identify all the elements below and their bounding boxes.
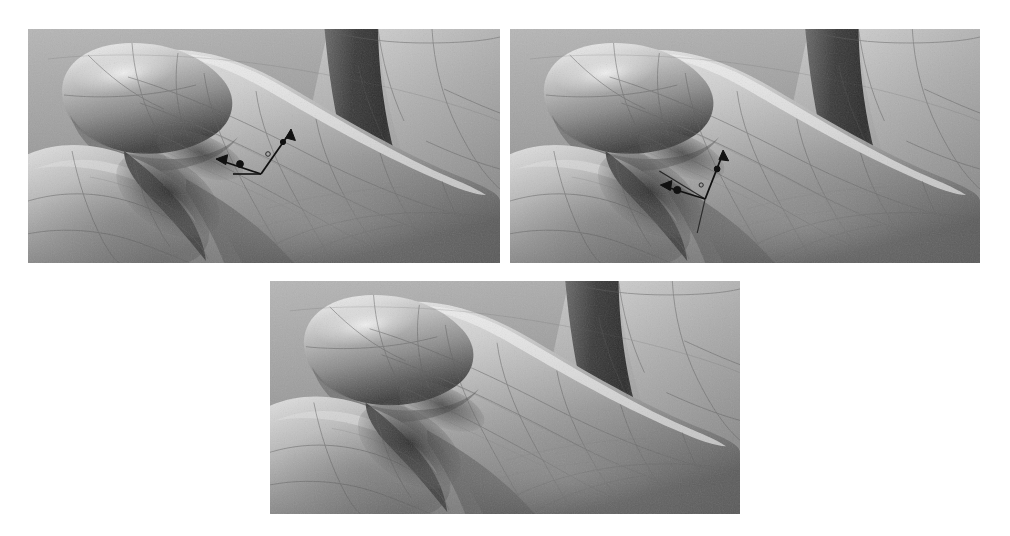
node-dot-1	[674, 186, 681, 193]
node-dot-1	[237, 161, 244, 168]
render-panel-top-left	[28, 29, 500, 263]
panel-a-render	[28, 29, 500, 263]
node-dot-2	[714, 166, 720, 172]
surface-grain	[510, 29, 980, 263]
render-panel-bottom-center	[270, 281, 740, 514]
figure-root	[0, 0, 1010, 536]
render-panel-top-right	[510, 29, 980, 263]
panel-b-render	[510, 29, 980, 263]
node-dot-2	[280, 139, 285, 144]
surface-grain	[28, 29, 500, 263]
surface-grain	[270, 281, 740, 514]
panel-c-render	[270, 281, 740, 514]
